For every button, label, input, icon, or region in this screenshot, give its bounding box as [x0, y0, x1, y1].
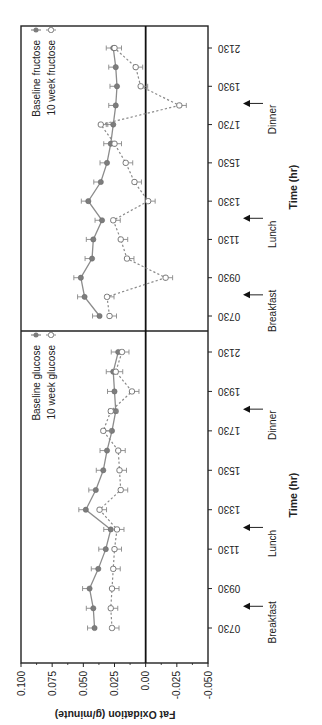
- marker-open: [138, 84, 143, 89]
- marker-open: [108, 606, 113, 611]
- marker-open: [112, 547, 117, 552]
- marker-open: [97, 507, 102, 512]
- marker-filled: [104, 448, 109, 453]
- meal-label-dinner: Dinner: [267, 104, 278, 134]
- x-tick-label: 2130: [218, 347, 241, 358]
- marker-open: [146, 199, 151, 204]
- marker-filled: [98, 179, 103, 184]
- marker-open: [111, 566, 116, 571]
- marker-open: [113, 369, 118, 374]
- meal-label-lunch: Lunch: [267, 530, 278, 557]
- marker-open: [101, 428, 106, 433]
- marker-filled: [108, 527, 113, 532]
- x-tick-label: 1530: [218, 465, 241, 476]
- marker-filled: [96, 566, 101, 571]
- meal-arrow-head: [243, 603, 250, 610]
- marker-filled: [82, 294, 87, 299]
- marker-open: [104, 294, 109, 299]
- marker-open: [177, 103, 182, 108]
- marker-open: [112, 141, 117, 146]
- x-tick-label: 1930: [218, 386, 241, 397]
- marker-open: [109, 586, 114, 591]
- legend-label: Baseline glucose: [31, 345, 42, 421]
- meal-label-dinner: Dinner: [267, 410, 278, 440]
- x-tick-label: 1930: [218, 81, 241, 92]
- marker-open: [114, 527, 119, 532]
- marker-filled: [97, 313, 102, 318]
- x-tick-label: 1330: [218, 196, 241, 207]
- x-tick-label: 2130: [218, 43, 241, 54]
- x-tick-label: 1130: [218, 234, 240, 245]
- meal-arrow-head: [243, 406, 250, 413]
- meal-arrow-head: [243, 215, 250, 222]
- legend-marker-open: [49, 333, 54, 338]
- marker-filled: [91, 237, 96, 242]
- y-tick-label: -0.050: [203, 671, 214, 700]
- meal-label-breakfast: Breakfast: [267, 290, 278, 332]
- legend-marker-filled: [34, 28, 39, 33]
- y-tick-label: 0.100: [16, 671, 27, 696]
- marker-open: [133, 65, 138, 70]
- marker-filled: [104, 160, 109, 165]
- x-tick-label: 1330: [218, 504, 241, 515]
- y-tick-label: 0.00: [140, 671, 151, 691]
- marker-open: [163, 275, 168, 280]
- legend-label: 10 week fructose: [46, 40, 57, 116]
- meal-label-breakfast: Breakfast: [267, 601, 278, 643]
- y-axis-title: Fat Oxidation (g/minute): [55, 709, 176, 721]
- marker-filled: [91, 606, 96, 611]
- marker-filled: [86, 199, 91, 204]
- marker-filled: [92, 625, 97, 630]
- marker-open: [112, 45, 117, 50]
- marker-open: [117, 468, 122, 473]
- marker-filled: [101, 468, 106, 473]
- legend-label: 10 week glucose: [46, 345, 57, 420]
- meal-arrow-head: [243, 524, 250, 531]
- marker-open: [123, 160, 128, 165]
- marker-filled: [89, 256, 94, 261]
- marker-open: [109, 625, 114, 630]
- marker-filled: [114, 84, 119, 89]
- marker-open: [116, 448, 121, 453]
- y-tick-label: -0.025: [171, 671, 182, 700]
- marker-open: [124, 256, 129, 261]
- marker-filled: [78, 275, 83, 280]
- x-tick-label: 0730: [218, 311, 241, 322]
- x-tick-label: 1730: [218, 119, 241, 130]
- x-tick-label: 0730: [218, 623, 241, 634]
- marker-open: [129, 389, 134, 394]
- legend-marker-filled: [34, 333, 39, 338]
- meal-label-lunch: Lunch: [267, 221, 278, 248]
- meal-arrow-head: [243, 100, 250, 107]
- chart-stage: 0.1000.0750.0500.0250.00-0.025-0.050Fat …: [0, 0, 322, 725]
- x-tick-label: 1130: [218, 544, 240, 555]
- marker-open: [108, 409, 113, 414]
- marker-open: [107, 313, 112, 318]
- marker-filled: [112, 389, 117, 394]
- marker-filled: [103, 547, 108, 552]
- legend-marker-open: [49, 28, 54, 33]
- marker-filled: [83, 507, 88, 512]
- marker-filled: [99, 218, 104, 223]
- x-axis-title: Time (hr): [287, 165, 299, 210]
- marker-filled: [93, 487, 98, 492]
- x-tick-label: 0930: [218, 272, 241, 283]
- marker-filled: [113, 65, 118, 70]
- chart-svg: 0.1000.0750.0500.0250.00-0.025-0.050Fat …: [0, 0, 322, 725]
- marker-open: [118, 237, 123, 242]
- marker-open: [119, 349, 124, 354]
- x-axis-title: Time (hr): [287, 473, 299, 518]
- meal-arrow-head: [243, 291, 250, 298]
- marker-filled: [87, 586, 92, 591]
- marker-open: [132, 179, 137, 184]
- y-tick-label: 0.075: [47, 671, 58, 696]
- x-tick-label: 0930: [218, 583, 241, 594]
- x-tick-label: 1530: [218, 157, 241, 168]
- y-tick-label: 0.050: [78, 671, 89, 696]
- marker-open: [118, 487, 123, 492]
- x-tick-label: 1730: [218, 425, 241, 436]
- legend-label: Baseline fructose: [31, 40, 42, 117]
- marker-open: [98, 122, 103, 127]
- y-tick-label: 0.025: [109, 671, 120, 696]
- marker-open: [111, 218, 116, 223]
